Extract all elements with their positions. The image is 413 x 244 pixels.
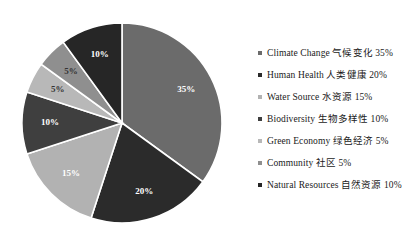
- legend-swatch-icon: [258, 51, 262, 55]
- legend-swatch-icon: [258, 139, 262, 143]
- pie-slice-value-label: 5%: [51, 84, 65, 94]
- legend-swatch-icon: [258, 73, 262, 77]
- pie-chart-area: 35%20%15%10%5%5%10%: [0, 0, 248, 244]
- legend-item[interactable]: Human Health 人类健康 20%: [258, 64, 413, 86]
- legend-item-label: Water Source 水资源 15%: [267, 86, 372, 108]
- pie-slice-value-label: 15%: [62, 168, 80, 178]
- legend-swatch-icon: [258, 161, 262, 165]
- legend-swatch-icon: [258, 183, 262, 187]
- pie-slice-value-label: 5%: [64, 66, 78, 76]
- pie-chart-svg: 35%20%15%10%5%5%10%: [0, 0, 248, 244]
- legend-item-label: Biodiversity 生物多样性 10%: [267, 108, 388, 130]
- chart-legend: Climate Change 气候变化 35%Human Health 人类健康…: [258, 42, 413, 196]
- legend-item-label: Human Health 人类健康 20%: [267, 64, 387, 86]
- legend-item[interactable]: Water Source 水资源 15%: [258, 86, 413, 108]
- legend-item[interactable]: Natural Resources 自然资源 10%: [258, 174, 413, 196]
- legend-item-label: Climate Change 气候变化 35%: [267, 42, 393, 64]
- legend-item[interactable]: Community 社区 5%: [258, 152, 413, 174]
- legend-item-label: Green Economy 绿色经济 5%: [267, 130, 389, 152]
- legend-swatch-icon: [258, 95, 262, 99]
- pie-slice-value-label: 35%: [177, 84, 195, 94]
- legend-item[interactable]: Climate Change 气候变化 35%: [258, 42, 413, 64]
- legend-item[interactable]: Biodiversity 生物多样性 10%: [258, 108, 413, 130]
- pie-chart-figure: 35%20%15%10%5%5%10% Climate Change 气候变化 …: [0, 0, 413, 244]
- legend-item[interactable]: Green Economy 绿色经济 5%: [258, 130, 413, 152]
- legend-item-label: Community 社区 5%: [267, 152, 351, 174]
- pie-slice-value-label: 10%: [41, 117, 59, 127]
- legend-swatch-icon: [258, 117, 262, 121]
- pie-slice-value-label: 20%: [135, 186, 153, 196]
- pie-slice-value-label: 10%: [91, 49, 109, 59]
- legend-item-label: Natural Resources 自然资源 10%: [267, 174, 402, 196]
